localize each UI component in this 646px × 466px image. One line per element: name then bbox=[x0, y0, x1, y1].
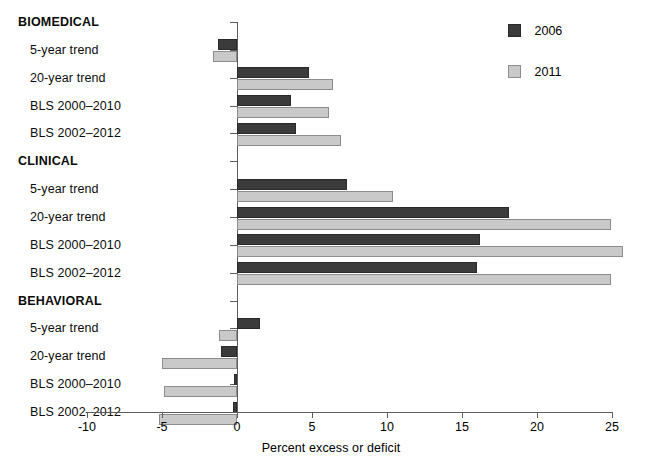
bar-2006-8 bbox=[237, 234, 480, 245]
chart-legend: 2006 2011 bbox=[508, 24, 562, 106]
legend-swatch-2006-icon bbox=[508, 24, 521, 37]
x-axis-title: Percent excess or deficit bbox=[0, 441, 646, 455]
category-tick bbox=[230, 273, 237, 274]
bar-2006-4 bbox=[237, 123, 296, 134]
x-axis-tick-label: -5 bbox=[156, 420, 167, 434]
bar-2006-9 bbox=[237, 262, 477, 273]
bar-2011-11 bbox=[219, 330, 237, 341]
bar-2011-8 bbox=[237, 246, 623, 257]
bar-2011-12 bbox=[162, 358, 237, 369]
x-axis-title-text: Percent excess or deficit bbox=[262, 441, 401, 455]
group-label-clinical: CLINICAL bbox=[18, 155, 78, 168]
bar-2011-3 bbox=[237, 107, 329, 118]
x-axis-tick bbox=[162, 412, 163, 418]
category-tick bbox=[230, 106, 237, 107]
x-axis-tick bbox=[387, 412, 388, 418]
bar-2011-13 bbox=[164, 386, 238, 397]
bar-2011-2 bbox=[237, 79, 333, 90]
category-tick bbox=[230, 245, 237, 246]
category-tick bbox=[230, 217, 237, 218]
bar-2006-2 bbox=[237, 67, 309, 78]
category-tick bbox=[230, 22, 237, 23]
legend-label-2006: 2006 bbox=[534, 24, 562, 38]
bar-2006-3 bbox=[237, 95, 291, 106]
bar-2011-9 bbox=[237, 274, 611, 285]
x-axis-tick bbox=[237, 412, 238, 418]
x-axis-tick-label: 15 bbox=[455, 420, 469, 434]
bar-2006-7 bbox=[237, 207, 509, 218]
bar-2006-11 bbox=[237, 318, 260, 329]
bar-2006-13 bbox=[234, 374, 237, 385]
x-axis-tick-label: 20 bbox=[530, 420, 544, 434]
category-tick bbox=[230, 133, 237, 134]
legend-swatch-2011-icon bbox=[508, 65, 521, 78]
x-axis-tick-label: 0 bbox=[234, 420, 241, 434]
legend-item-2011: 2011 bbox=[508, 65, 562, 79]
x-axis-tick bbox=[537, 412, 538, 418]
x-axis-tick bbox=[462, 412, 463, 418]
x-axis-tick-label: 25 bbox=[605, 420, 619, 434]
x-axis-tick bbox=[612, 412, 613, 418]
bar-2011-7 bbox=[237, 219, 611, 230]
x-axis-tick-label: 5 bbox=[309, 420, 316, 434]
category-tick bbox=[230, 189, 237, 190]
category-tick bbox=[230, 78, 237, 79]
bar-2011-4 bbox=[237, 135, 341, 146]
category-tick bbox=[230, 301, 237, 302]
legend-label-2011: 2011 bbox=[534, 65, 561, 79]
bar-2006-14 bbox=[233, 402, 238, 413]
x-axis-tick bbox=[87, 412, 88, 418]
bar-2006-6 bbox=[237, 179, 347, 190]
x-axis-line bbox=[87, 412, 613, 413]
x-axis-tick bbox=[312, 412, 313, 418]
bar-2011-1 bbox=[213, 51, 237, 62]
x-axis-tick-label: -10 bbox=[78, 420, 96, 434]
x-axis-tick-label: 10 bbox=[380, 420, 394, 434]
legend-item-2006: 2006 bbox=[508, 24, 562, 38]
bar-2006-1 bbox=[218, 39, 238, 50]
category-tick bbox=[230, 161, 237, 162]
bar-2006-12 bbox=[221, 346, 238, 357]
horizontal-bar-chart: BIOMEDICAL5-year trend20-year trendBLS 2… bbox=[0, 0, 646, 466]
bar-2011-6 bbox=[237, 191, 393, 202]
bar-2011-14 bbox=[159, 414, 237, 425]
